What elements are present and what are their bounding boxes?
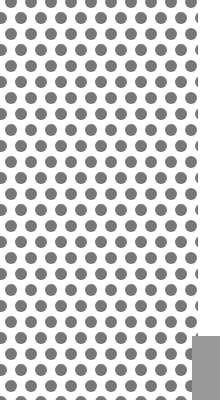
gray-corner-block (192, 336, 220, 400)
polka-dot-pattern (0, 0, 198, 400)
dot-pattern-graphic (0, 0, 198, 400)
